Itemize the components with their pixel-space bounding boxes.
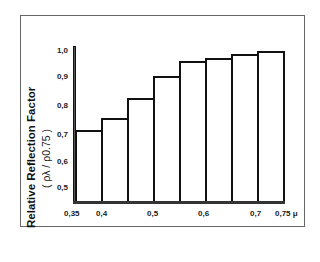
x-tick-0-75: 0,75 μ — [275, 209, 298, 218]
y-axis-line — [73, 46, 76, 204]
bar-2 — [101, 118, 129, 202]
bar-3 — [127, 98, 155, 202]
bar-8 — [257, 51, 285, 202]
bar-6 — [205, 58, 233, 202]
x-tick-0-7: 0,7 — [250, 209, 261, 218]
bar-5 — [179, 61, 207, 202]
x-tick-0-6: 0,6 — [198, 209, 209, 218]
x-axis-line — [73, 201, 285, 204]
x-tick-0-5: 0,5 — [147, 209, 158, 218]
bar-1 — [75, 130, 103, 202]
y-tick-0-8: 0,8 — [48, 101, 68, 110]
y-tick-0-7: 0,7 — [48, 130, 68, 139]
y-tick-0-9: 0,9 — [48, 72, 68, 81]
y-tick-1-0: 1,0 — [48, 46, 68, 55]
y-tick-0-5: 0,5 — [48, 183, 68, 192]
bar-7 — [231, 54, 259, 202]
x-tick-0-4: 0,4 — [96, 209, 107, 218]
x-tick-0-35: 0,35 — [64, 209, 80, 218]
y-axis-title: Relative Reflection Factor — [25, 87, 37, 228]
y-tick-0-6: 0,6 — [48, 157, 68, 166]
bar-4 — [153, 76, 181, 202]
